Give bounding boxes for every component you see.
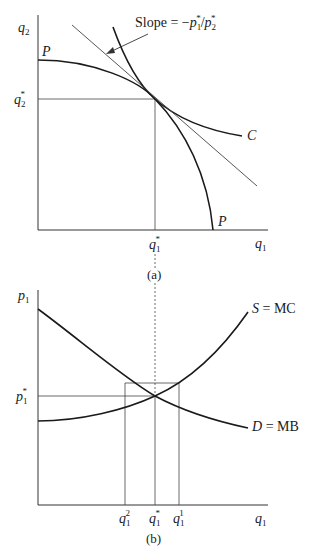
slope-arrow	[110, 34, 148, 52]
ppf-label-bottom: P	[217, 214, 227, 229]
q1-1-tick-label: q11	[173, 508, 184, 528]
panel-a-caption: (a)	[147, 267, 161, 282]
economics-figure: q2 P Slope = −p1*/p2* q2* C P q1* q1 (a)…	[0, 0, 311, 556]
q1-2-tick-label: q12	[119, 508, 131, 528]
slope-annotation: Slope = −p1*/p2*	[135, 13, 216, 32]
q2-star-tick-label: q2*	[14, 89, 26, 109]
panel-a: q2 P Slope = −p1*/p2* q2* C P q1* q1 (a)	[14, 13, 268, 282]
q1-star-tick-label-b: q1*	[149, 508, 161, 528]
panel-a-y-axis-label: q2	[18, 20, 30, 37]
p1-star-tick-label: p1*	[15, 386, 28, 406]
price-line	[72, 25, 257, 186]
demand-label: D = MB	[251, 419, 299, 434]
panel-b: p1 S = MC p1* D = MB q12 q1* q11 q1 (b)	[15, 288, 299, 546]
panel-b-x-axis-label: q1	[255, 511, 267, 528]
q1-star-tick-label: q1*	[149, 234, 161, 254]
supply-label: S = MC	[252, 301, 296, 316]
ppf-label-top: P	[41, 44, 51, 59]
indifference-label-c: C	[247, 128, 257, 143]
panel-b-caption: (b)	[146, 531, 161, 546]
arrow-head-icon	[106, 47, 115, 54]
demand-curve	[38, 309, 248, 428]
ppf-curve	[38, 60, 213, 230]
panel-b-y-axis-label: p1	[17, 288, 30, 305]
supply-curve	[38, 312, 248, 421]
panel-a-x-axis-label: q1	[255, 236, 267, 253]
